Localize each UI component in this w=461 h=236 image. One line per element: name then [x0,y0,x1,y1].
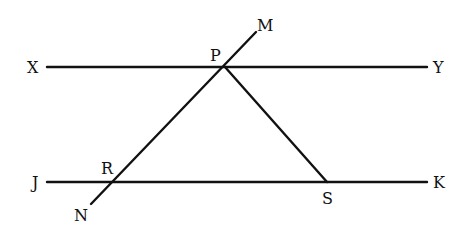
label-x: X [27,58,39,77]
label-r: R [101,159,114,178]
label-j: J [30,173,38,192]
label-y: Y [432,58,444,77]
label-m: M [257,16,273,35]
label-k: K [433,173,446,192]
label-s: S [322,189,333,208]
label-n: N [74,206,88,225]
segment-ps [225,67,327,182]
transversal-mn [91,32,256,204]
label-p: P [210,46,221,65]
geometry-diagram: X Y P M J K R S N [0,0,461,236]
